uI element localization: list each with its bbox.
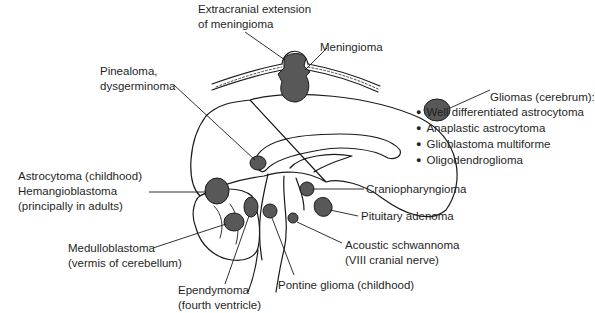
astrocytoma-tumor: [205, 178, 229, 204]
label-line: (VIII cranial nerve): [345, 253, 459, 268]
label-pinealoma: Pinealoma, dysgerminoma: [100, 64, 175, 94]
glioma-item: Glioblastoma multiforme: [416, 137, 595, 153]
medulloblastoma-tumor: [224, 213, 244, 231]
label-line: Acoustic schwannoma: [345, 238, 459, 253]
label-acoustic-schwannoma: Acoustic schwannoma (VIII cranial nerve): [345, 238, 459, 268]
ependymoma-tumor: [244, 197, 258, 217]
corpus-callosum: [255, 134, 400, 172]
glioma-item: Oligodendroglioma: [416, 153, 595, 169]
brainstem: [248, 174, 304, 292]
label-line: Hemangioblastoma: [18, 184, 142, 199]
label-ependymoma: Ependymoma (fourth ventricle): [178, 283, 261, 313]
label-line: Astrocytoma (childhood): [18, 169, 142, 184]
label-pituitary-adenoma: Pituitary adenoma: [361, 209, 454, 224]
label-meningioma: Meningioma: [320, 40, 383, 55]
label-extracranial-meningioma: Extracranial extension of meningioma: [198, 2, 311, 32]
label-gliomas: Gliomas (cerebrum): Well differentiated …: [416, 90, 595, 169]
label-line: Extracranial extension: [198, 2, 311, 17]
label-line: dysgerminoma: [100, 79, 175, 94]
craniopharyngioma-tumor: [300, 182, 314, 196]
label-line: (fourth ventricle): [178, 298, 261, 313]
label-line: (vermis of cerebellum): [68, 256, 182, 271]
label-line: of meningioma: [198, 17, 311, 32]
glioma-item: Well differentiated astrocytoma: [416, 105, 595, 121]
acoustic-tumor: [288, 213, 298, 223]
label-line: Ependymoma: [178, 283, 261, 298]
label-line: Pinealoma,: [100, 64, 175, 79]
label-craniopharyngioma: Craniopharyngioma: [366, 182, 466, 197]
gliomas-title: Gliomas (cerebrum):: [490, 90, 595, 105]
pontine-glioma-tumor: [263, 204, 277, 218]
label-astrocytoma: Astrocytoma (childhood) Hemangioblastoma…: [18, 169, 142, 214]
label-medulloblastoma: Medulloblastoma (vermis of cerebellum): [68, 241, 182, 271]
glioma-item: Anaplastic astrocytoma: [416, 121, 595, 137]
label-line: (principally in adults): [18, 199, 142, 214]
pituitary-tumor: [314, 198, 332, 217]
label-pontine-glioma: Pontine glioma (childhood): [278, 278, 414, 293]
label-line: Medulloblastoma: [68, 241, 182, 256]
